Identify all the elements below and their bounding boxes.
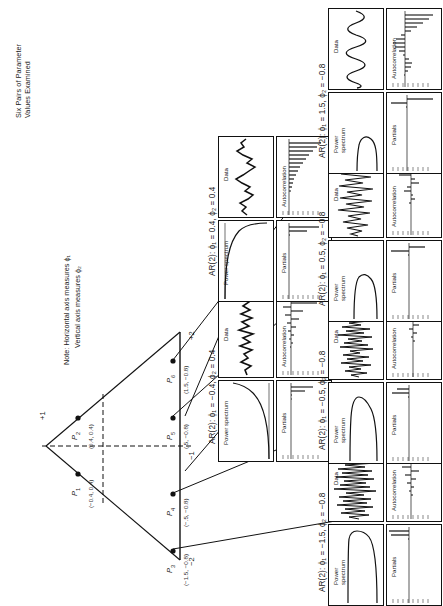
subplot-partials-p4: Partials bbox=[386, 382, 442, 464]
subplot-power-spectrum-p6: Powerspectrum bbox=[328, 92, 384, 174]
point-marker-p5 bbox=[170, 415, 175, 420]
stationarity-triangle-diagram: +1 +2 −1 −2 P1 (−0.4, 0.4) P2 (0.4, 0.4)… bbox=[42, 318, 202, 568]
subplot-caption-data: Data bbox=[222, 168, 229, 181]
parameter-points bbox=[75, 358, 175, 553]
subplot-caption-power-spectrum: Power spectrum bbox=[222, 241, 229, 285]
subplot-caption-autocorrelation: Autocorrelation bbox=[390, 186, 397, 227]
subplot-caption-data: Data bbox=[222, 328, 229, 341]
point-marker-p2 bbox=[75, 415, 80, 420]
panel-title-p5: AR(2): ϕ₁ = 0.5, ϕ₂ = −0.8 bbox=[318, 212, 327, 306]
subplot-partials-p5: Partials bbox=[386, 240, 442, 322]
subplot-caption-autocorrelation: Autocorrelation bbox=[390, 470, 397, 511]
subplot-caption-power-spectrum: Power spectrum bbox=[222, 401, 229, 445]
point-marker-p1 bbox=[75, 471, 80, 476]
subplot-caption-power-spectrum: Powerspectrum bbox=[332, 560, 346, 585]
figure-title-line1: Six Pairs of Parameter bbox=[14, 44, 23, 118]
point-label-p4: P4 bbox=[165, 508, 176, 516]
point-coord-p6: (1.5, −0.8) bbox=[182, 366, 189, 394]
subplot-caption-partials: Partials bbox=[280, 413, 287, 433]
subplot-caption-autocorrelation: Autocorrelation bbox=[390, 38, 397, 79]
subplot-power-spectrum-p4: Powerspectrum bbox=[328, 382, 384, 464]
subplot-data-p2: Data bbox=[218, 136, 274, 218]
subplot-power-spectrum-p3: Powerspectrum bbox=[328, 524, 384, 606]
panel-title-p4: AR(2): ϕ₁ = −0.5, ϕ₂ = −0.8 bbox=[318, 351, 327, 450]
tick-label-plus1: +1 bbox=[38, 411, 47, 420]
panel-title-p2: AR(2): ϕ₁ = 0.4, ϕ₂ = 0.4 bbox=[208, 186, 217, 276]
point-coord-p2: (0.4, 0.4) bbox=[87, 424, 94, 449]
panel-title-p1: AR(2): ϕ₁ = −0.4, ϕ₂ = 0.4 bbox=[208, 350, 217, 444]
point-coord-p4: (−.5, −0.8) bbox=[182, 498, 189, 527]
subplot-caption-data: Data bbox=[332, 188, 339, 201]
subplot-caption-data: Data bbox=[332, 330, 339, 343]
subplot-caption-partials: Partials bbox=[390, 415, 397, 435]
point-label-p1: P1 bbox=[70, 488, 81, 496]
point-label-p6: P6 bbox=[165, 375, 176, 383]
subplot-power-spectrum-p1: Power spectrum bbox=[218, 380, 274, 462]
point-label-p3: P3 bbox=[165, 565, 176, 573]
triangle-dashed-guides bbox=[42, 394, 194, 503]
tick-label-minus1: −1 bbox=[187, 451, 196, 460]
point-label-p5: P5 bbox=[165, 432, 176, 440]
subplot-caption-autocorrelation: Autocorrelation bbox=[280, 326, 287, 367]
subplot-caption-partials: Partials bbox=[280, 253, 287, 273]
panel-title-p3: AR(2): ϕ₁ = −1.5, ϕ₂ = −0.8 bbox=[318, 493, 327, 592]
subplot-power-spectrum-p5: Powerspectrum bbox=[328, 240, 384, 322]
subplot-caption-partials: Partials bbox=[390, 125, 397, 145]
point-coord-p5: (.5, −0.8) bbox=[182, 424, 189, 449]
subplot-caption-autocorrelation: Autocorrelation bbox=[280, 166, 287, 207]
point-marker-p6 bbox=[170, 358, 175, 363]
point-label-p2: P2 bbox=[70, 432, 81, 440]
point-coord-p3: (−1.5, −0.8) bbox=[182, 554, 189, 586]
subplot-power-spectrum-p2: Power spectrum bbox=[218, 220, 274, 302]
point-coord-p1: (−0.4, 0.4) bbox=[87, 480, 94, 508]
figure-title-line2: Values Examined bbox=[23, 44, 32, 118]
subplot-partials-p3: Partials bbox=[386, 524, 442, 606]
subplot-caption-data: Data bbox=[332, 472, 339, 485]
panel-title-p6: AR(2): ϕ₁ = 1.5, ϕ₂ = −0.8 bbox=[318, 64, 327, 158]
subplot-autocorrelation-p6: Autocorrelation bbox=[386, 8, 442, 90]
subplot-data-p1: Data bbox=[218, 296, 274, 378]
subplot-caption-autocorrelation: Autocorrelation bbox=[390, 328, 397, 369]
subplot-caption-data: Data bbox=[332, 40, 339, 53]
subplot-caption-partials: Partials bbox=[390, 557, 397, 577]
triangle-svg bbox=[42, 318, 202, 568]
subplot-caption-partials: Partials bbox=[390, 273, 397, 293]
subplot-caption-power-spectrum: Powerspectrum bbox=[332, 128, 346, 153]
figure-title: Six Pairs of Parameter Values Examined bbox=[14, 44, 32, 118]
point-marker-p3 bbox=[170, 548, 175, 553]
subplot-data-p6: Data bbox=[328, 8, 384, 90]
tick-label-plus2: +2 bbox=[187, 331, 196, 340]
subplot-caption-power-spectrum: Powerspectrum bbox=[332, 418, 346, 443]
subplot-caption-power-spectrum: Powerspectrum bbox=[332, 276, 346, 301]
point-marker-p4 bbox=[170, 491, 175, 496]
subplot-partials-p6: Partials bbox=[386, 92, 442, 174]
